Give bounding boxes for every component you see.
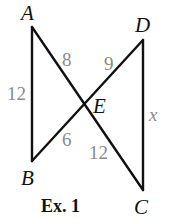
point-label-b: B — [21, 166, 34, 190]
segment-ac — [32, 27, 143, 190]
point-label-a: A — [19, 1, 34, 25]
point-label-d: D — [134, 13, 150, 37]
segment-db — [32, 40, 143, 161]
geometry-figure: A D B C E 8 9 12 6 12 x Ex. 1 — [0, 0, 169, 218]
bowtie-triangles-diagram: A D B C E 8 9 12 6 12 x Ex. 1 — [0, 0, 169, 218]
figure-caption: Ex. 1 — [41, 196, 80, 216]
measure-ae: 8 — [62, 49, 72, 70]
measure-ec: 12 — [89, 142, 108, 163]
point-label-c: C — [134, 195, 149, 218]
measure-eb: 6 — [62, 129, 72, 150]
measure-de: 9 — [104, 53, 114, 74]
measure-ab: 12 — [7, 83, 26, 104]
measure-dc-variable: x — [148, 104, 158, 125]
point-label-e: E — [92, 94, 106, 118]
